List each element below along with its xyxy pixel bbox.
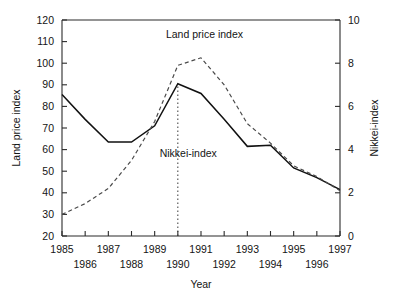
x-axis-tick-label-even: 1994 xyxy=(259,258,283,270)
chart-container: Land price indexNikkei-index 20304050607… xyxy=(0,0,393,298)
plot-area: Land price indexNikkei-index 20304050607… xyxy=(36,14,359,270)
line-chart: Land price indexNikkei-index 20304050607… xyxy=(0,0,393,298)
left-axis-tick-label: 30 xyxy=(42,208,54,220)
x-axis-tick-label-even: 1988 xyxy=(120,258,144,270)
left-axis-tick-label: 110 xyxy=(37,35,54,47)
left-axis-tick-label: 50 xyxy=(42,165,54,177)
x-axis-tick-label-odd: 1993 xyxy=(236,243,260,255)
right-axis-tick-label: 6 xyxy=(348,100,354,112)
right-axis-tick-label: 2 xyxy=(348,186,354,198)
left-axis-tick-label: 70 xyxy=(42,122,54,134)
series-line-land-price-index xyxy=(62,58,340,215)
axes-group xyxy=(62,20,340,236)
left-axis-tick-label: 20 xyxy=(42,230,54,242)
left-axis-tick-label: 120 xyxy=(36,14,54,26)
x-axis-tick-label-odd: 1991 xyxy=(189,243,213,255)
x-axis-tick-label-odd: 1987 xyxy=(97,243,121,255)
left-axis-tick-label: 80 xyxy=(42,100,54,112)
left-axis-tick-label: 90 xyxy=(42,78,54,90)
x-axis-tick-label-odd: 1989 xyxy=(143,243,167,255)
right-axis-tick-label: 4 xyxy=(348,143,354,155)
series-group xyxy=(62,58,340,215)
x-axis-tick-label-odd: 1985 xyxy=(50,243,74,255)
x-axis-tick-label-even: 1986 xyxy=(73,258,97,270)
left-axis-title: Land price index xyxy=(10,89,22,167)
right-axis-tick-label: 10 xyxy=(348,14,360,26)
left-axis-tick-label: 40 xyxy=(42,186,54,198)
left-axis-tick-label: 100 xyxy=(36,57,54,69)
x-axis-title: Year xyxy=(190,278,212,290)
series-line-nikkei-index xyxy=(62,84,340,190)
x-axis-tick-label-even: 1992 xyxy=(212,258,236,270)
x-axis-tick-label-even: 1996 xyxy=(305,258,329,270)
right-axis-tick-label: 0 xyxy=(348,230,354,242)
x-axis-tick-label-odd: 1995 xyxy=(282,243,306,255)
right-axis-tick-label: 8 xyxy=(348,57,354,69)
annotation-land-price-index: Land price index xyxy=(166,28,244,40)
left-axis-tick-label: 60 xyxy=(42,143,54,155)
right-axis-title: Nikkei-index xyxy=(368,99,380,157)
annotation-nikkei-index: Nikkei-index xyxy=(160,147,218,159)
x-axis-tick-label-odd: 1997 xyxy=(328,243,352,255)
x-axis-tick-label-even: 1990 xyxy=(166,258,190,270)
